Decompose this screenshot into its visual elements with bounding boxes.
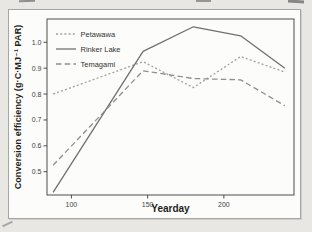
legend-label-rinker-lake: Rinker Lake (81, 45, 121, 54)
y-axis-label: Conversion efficiency (g·C·MJ⁻¹ PAR) (13, 8, 25, 206)
x-axis-label: Yearday (47, 203, 294, 215)
scan-artifact (196, 0, 211, 2)
y-tick-label: 0.8 (32, 91, 42, 98)
figure-frame: 1001502000.50.60.70.80.91.0PetawawaRinke… (8, 9, 301, 219)
y-tick-label: 0.7 (32, 116, 42, 123)
legend-label-petawawa: Petawawa (81, 30, 116, 39)
scan-artifact (288, 0, 304, 3)
y-tick-label: 0.5 (32, 168, 42, 175)
series-line-temagami (53, 71, 285, 165)
line-chart: 1001502000.50.60.70.80.91.0PetawawaRinke… (9, 10, 300, 218)
y-tick-label: 1.0 (32, 39, 42, 46)
y-tick-label: 0.6 (32, 142, 42, 149)
scan-artifact (19, 0, 35, 2)
legend-label-temagami: Temagami (81, 60, 116, 69)
scan-artifact (2, 221, 13, 227)
scanned-page-background: 1001502000.50.60.70.80.91.0PetawawaRinke… (0, 0, 312, 232)
y-tick-label: 0.9 (32, 65, 42, 72)
